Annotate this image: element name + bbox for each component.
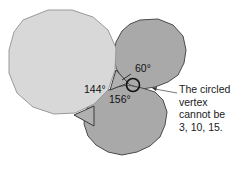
annotation-text: The circled vertex cannot be 3, 10, 15.	[179, 83, 236, 133]
angle-label-156: 156°	[109, 93, 131, 105]
annotation-line-2: vertex	[179, 96, 236, 109]
annotation-line-3: cannot be	[179, 108, 236, 121]
annotation-arrow	[155, 89, 177, 93]
angle-label-144: 144°	[84, 83, 106, 95]
annotation-line-4: 3, 10, 15.	[179, 121, 236, 134]
decagon-polygon	[9, 10, 116, 114]
annotation-line-1: The circled	[179, 83, 236, 96]
angle-label-60: 60°	[135, 62, 151, 74]
